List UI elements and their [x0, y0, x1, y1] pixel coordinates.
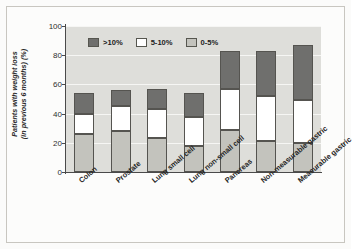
y-tick-label-0: 0 [42, 168, 62, 177]
legend-swatch-icon [88, 38, 99, 47]
y-tick-mark-40 [62, 114, 65, 115]
y-axis-title-line2: (in previous 6 months) (%) [19, 49, 28, 139]
chart-legend: >10%5-10%0-5% [88, 38, 218, 47]
y-axis-title-container: Patients with weight loss (in previous 6… [8, 18, 30, 170]
bar-segment[interactable] [184, 117, 204, 146]
bar-segment[interactable] [220, 89, 240, 130]
legend-label: >10% [103, 38, 123, 47]
y-tick-mark-80 [62, 55, 65, 56]
legend-item[interactable]: >10% [88, 38, 123, 47]
y-tick-label-60: 60 [42, 80, 62, 89]
bar-segment[interactable] [147, 89, 167, 109]
bar-segment[interactable] [74, 114, 94, 134]
bar-segment[interactable] [293, 45, 313, 100]
bar-group[interactable] [74, 26, 94, 172]
y-tick-mark-100 [62, 26, 65, 27]
y-axis-line [65, 24, 66, 174]
y-axis-title-line1: Patients with weight loss [10, 51, 19, 136]
legend-item[interactable]: 0-5% [186, 38, 219, 47]
y-tick-mark-0 [62, 172, 65, 173]
y-tick-mark-60 [62, 84, 65, 85]
y-tick-label-20: 20 [42, 138, 62, 147]
y-tick-mark-20 [62, 143, 65, 144]
y-axis-title: Patients with weight loss (in previous 6… [10, 49, 28, 139]
y-tick-label-40: 40 [42, 109, 62, 118]
legend-item[interactable]: 5-10% [136, 38, 173, 47]
y-axis-tick-labels: 020406080100 [40, 0, 62, 249]
bar-group[interactable] [147, 26, 167, 172]
legend-label: 5-10% [151, 38, 173, 47]
legend-label: 0-5% [201, 38, 219, 47]
bar-segment[interactable] [256, 51, 276, 96]
bar-segment[interactable] [147, 109, 167, 138]
legend-swatch-icon [136, 38, 147, 47]
y-tick-label-100: 100 [42, 22, 62, 31]
bar-segment[interactable] [74, 93, 94, 113]
bar-segment[interactable] [256, 96, 276, 141]
bar-segment[interactable] [220, 51, 240, 89]
bar-segment[interactable] [111, 106, 131, 131]
y-tick-label-80: 80 [42, 51, 62, 60]
legend-swatch-icon [186, 38, 197, 47]
bar-segment[interactable] [184, 93, 204, 116]
bar-group[interactable] [111, 26, 131, 172]
bar-group[interactable] [256, 26, 276, 172]
bar-segment[interactable] [111, 90, 131, 106]
